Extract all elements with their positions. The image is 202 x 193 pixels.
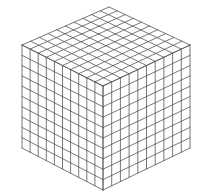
- cube-top-face: [22, 7, 190, 86]
- grid-line: [74, 22, 155, 61]
- cube-right-face: [103, 45, 190, 190]
- grid-line: [71, 30, 158, 70]
- grid-line: [63, 26, 150, 66]
- grid-line: [79, 34, 166, 74]
- grid-line: [92, 15, 173, 54]
- grid-line: [83, 18, 164, 57]
- grid-line: [87, 37, 174, 77]
- cube-diagram: Base-ten thousand cube drawn as an isome…: [0, 0, 202, 193]
- grid-line: [100, 11, 181, 49]
- thousand-cube-graphic: [0, 0, 202, 193]
- cube-left-face: [22, 45, 103, 190]
